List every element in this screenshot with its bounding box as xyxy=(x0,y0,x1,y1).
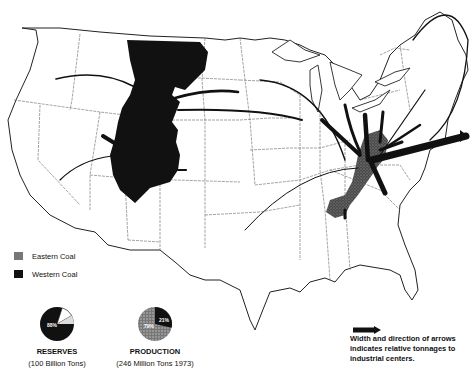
legend-label-western: Western Coal xyxy=(32,270,77,279)
reserves-title: RESERVES xyxy=(2,346,112,358)
western-coal-region xyxy=(110,40,208,203)
production-pie-chart: 21% 79% xyxy=(137,306,173,342)
arrow-legend-icon xyxy=(353,326,381,334)
reserves-subtitle: (100 Billion Tons) xyxy=(2,358,112,370)
reserves-pie-block: 88% RESERVES (100 Billion Tons) xyxy=(2,306,112,370)
western-flow-arrows xyxy=(56,75,345,180)
production-title: PRODUCTION xyxy=(100,346,210,358)
production-pie-label-west: 21% xyxy=(159,317,170,323)
arrow-note: Width and direction of arrows indicates … xyxy=(350,334,470,364)
production-subtitle: (246 Million Tons 1973) xyxy=(100,358,210,370)
eastern-coal-swatch xyxy=(14,252,23,260)
legend-item-western: Western Coal xyxy=(14,269,77,279)
western-coal-swatch xyxy=(14,270,23,278)
production-pie-block: 21% 79% PRODUCTION (246 Million Tons 197… xyxy=(100,306,210,370)
legend: Eastern Coal Western Coal xyxy=(14,251,77,287)
reserves-pie-label: 88% xyxy=(47,322,58,328)
production-pie-label-east: 79% xyxy=(144,323,155,329)
legend-item-eastern: Eastern Coal xyxy=(14,251,77,261)
legend-label-eastern: Eastern Coal xyxy=(32,252,75,261)
reserves-pie-chart: 88% xyxy=(39,306,75,342)
